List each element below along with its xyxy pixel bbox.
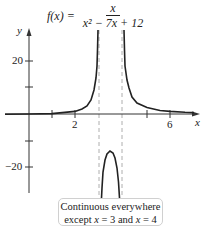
continuity-annotation: Continuous everywhere except x = 3 and x… xyxy=(58,198,163,226)
annotation-text: = 3 and xyxy=(99,214,136,225)
x-tick-label-6: 6 xyxy=(167,118,173,130)
y-tick-label-20: 20 xyxy=(12,54,23,66)
curve-left-branch xyxy=(5,30,98,114)
x-axis-label: x xyxy=(195,116,200,128)
y-tick-label-neg20: −20 xyxy=(5,160,22,172)
annotation-text: = 4 xyxy=(140,214,156,225)
annotation-line-2: except x = 3 and x = 4 xyxy=(59,213,162,226)
curve-right-branch xyxy=(124,30,194,113)
annotation-line-1: Continuous everywhere xyxy=(59,200,162,213)
x-tick-label-2: 2 xyxy=(72,118,78,130)
y-axis-arrow-icon xyxy=(27,28,32,36)
y-axis-label: y xyxy=(17,24,22,36)
annotation-text: except xyxy=(64,214,94,225)
curve-middle-branch xyxy=(102,151,120,198)
